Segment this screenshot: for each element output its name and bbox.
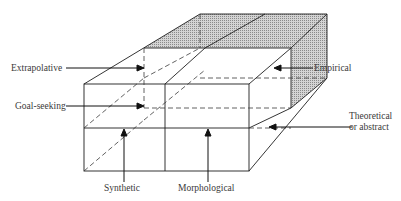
classification-cube-diagram: Extrapolative Goal-seeking Empirical The… [0, 0, 401, 201]
arrowhead-extrapolative [137, 65, 144, 71]
label-synthetic: Synthetic [104, 183, 140, 193]
arrowhead-synthetic [121, 129, 127, 136]
label-goal-seeking: Goal-seeking [15, 101, 66, 111]
label-extrapolative: Extrapolative [11, 63, 62, 73]
label-theoretical-line1: Theoretical [349, 111, 393, 121]
label-theoretical-line2: or abstract [349, 122, 389, 132]
arrowhead-empirical [274, 65, 281, 71]
arrowhead-theoretical [269, 124, 276, 130]
label-morphological: Morphological [178, 183, 235, 193]
label-empirical: Empirical [314, 63, 352, 73]
arrowhead-goal-seeking [137, 103, 144, 109]
arrowhead-morphological [205, 129, 211, 136]
